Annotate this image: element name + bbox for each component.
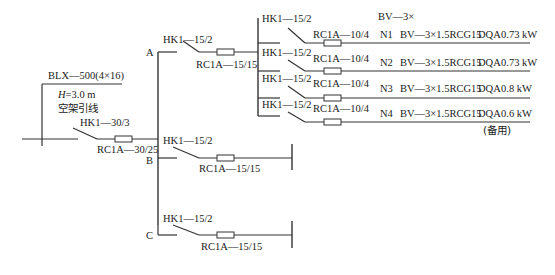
branch-a-fuse-label: RC1A—15/15: [196, 59, 257, 70]
main-fuse-icon: [115, 136, 132, 142]
branch-b-switch-blade: [173, 147, 199, 158]
n1-method: DQA: [478, 29, 501, 40]
n3-switch-label: HK1—15/2: [262, 73, 312, 84]
n2-fuse-label: RC1A—10/4: [313, 53, 370, 64]
incoming-service: BLX—500(4×16) H=3.0 m 空架引线 HK1—30/3 RC1A…: [22, 70, 158, 155]
branch-c-switch-label: HK1—15/2: [163, 213, 213, 224]
branch-a-fuse-icon: [217, 49, 234, 55]
distribution-system-diagram: BLX—500(4×16) H=3.0 m 空架引线 HK1—30/3 RC1A…: [0, 0, 555, 275]
branch-c-label: C: [146, 230, 153, 241]
branch-b-switch-label: HK1—15/2: [163, 135, 213, 146]
branch-c-fuse-label: RC1A—15/15: [201, 241, 262, 252]
n3-cable: BV—3×1.5RCG15: [400, 83, 481, 94]
n4-id: N4: [380, 108, 394, 119]
n1-fuse-label: RC1A—10/4: [313, 29, 370, 40]
spare-note: (备用): [483, 124, 511, 136]
branch-c-switch-blade: [173, 225, 199, 235]
n2-cable: BV—3×1.5RCG15: [400, 57, 481, 68]
n1-switch-label: HK1—15/2: [262, 13, 312, 24]
circuits-header: BV—3×: [378, 11, 414, 22]
n1-power: 0.73 kW: [501, 29, 537, 40]
n2-fuse-icon: [324, 68, 341, 74]
branch-a-switch-label: HK1—15/2: [163, 34, 213, 45]
branch-b-label: B: [146, 155, 153, 166]
branch-b: B HK1—15/2 RC1A—15/15: [146, 135, 292, 174]
branch-b-fuse-icon: [217, 155, 234, 161]
main-switch-blade: [73, 128, 97, 139]
height-label: H=3.0 m: [57, 89, 95, 100]
n3-power: 0.8 kW: [501, 83, 532, 94]
n2-method: DQA: [478, 57, 501, 68]
circuit-n2: HK1—15/2 RC1A—10/4 N2 BV—3×1.5RCG15 DQA …: [258, 43, 537, 74]
branch-c: C HK1—15/2 RC1A—15/15: [146, 213, 292, 252]
n3-fuse-label: RC1A—10/4: [313, 78, 370, 89]
n1-cable: BV—3×1.5RCG15: [400, 29, 481, 40]
n4-fuse-icon: [324, 119, 341, 125]
n4-power: 0.6 kW: [501, 108, 532, 119]
n3-method: DQA: [478, 83, 501, 94]
incoming-cable-label: BLX—500(4×16): [48, 70, 124, 82]
n3-fuse-icon: [324, 95, 341, 101]
circuit-n3: HK1—15/2 RC1A—10/4 N3 BV—3×1.5RCG15 DQA …: [258, 71, 532, 101]
n4-fuse-label: RC1A—10/4: [313, 103, 370, 114]
n3-id: N3: [380, 83, 393, 94]
main-fuse-label: RC1A—30/25: [97, 144, 158, 155]
n4-switch-label: HK1—15/2: [262, 99, 312, 110]
n3-switch-blade: [288, 86, 305, 98]
n4-method: DQA: [478, 108, 501, 119]
circuit-n4: HK1—15/2 RC1A—10/4 N4 BV—3×1.5RCG15 DQA …: [258, 98, 532, 125]
branch-b-fuse-label: RC1A—15/15: [199, 163, 260, 174]
n4-switch-blade: [288, 112, 305, 122]
branch-c-fuse-icon: [217, 232, 234, 238]
n1-id: N1: [380, 29, 393, 40]
n2-switch-label: HK1—15/2: [262, 47, 312, 58]
branch-a-label: A: [146, 47, 154, 58]
n2-switch-blade: [288, 60, 305, 71]
n4-cable: BV—3×1.5RCG15: [400, 108, 481, 119]
n2-id: N2: [380, 57, 393, 68]
n2-power: 0.73 kW: [501, 57, 537, 68]
main-switch-label: HK1—30/3: [80, 117, 130, 128]
branch-a: A HK1—15/2 RC1A—15/15: [146, 34, 258, 70]
overhead-lead-note: 空架引线: [58, 102, 99, 114]
n1-fuse-icon: [324, 40, 341, 46]
n1-switch-blade: [288, 28, 305, 43]
